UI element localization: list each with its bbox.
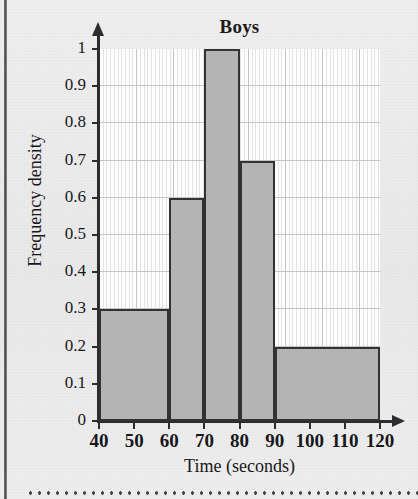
x-tick-mark	[168, 421, 170, 429]
y-tick-mark	[92, 271, 99, 273]
y-tick-mark	[92, 48, 99, 50]
x-tick-mark	[274, 421, 276, 429]
y-tick-mark	[92, 122, 99, 124]
y-tick-mark	[92, 346, 99, 348]
x-tick-mark	[344, 421, 346, 429]
y-tick-label: 0.2	[34, 336, 86, 356]
page-canvas: Boys 00.10.20.30.40.50.60.70.80.91 40506…	[0, 0, 418, 499]
histogram-bar	[204, 49, 239, 421]
x-tick-mark	[379, 421, 381, 429]
y-tick-mark	[92, 234, 99, 236]
y-tick-mark	[92, 160, 99, 162]
y-axis-arrow-icon	[92, 22, 104, 36]
x-tick-mark	[203, 421, 205, 429]
y-tick-label: 0.9	[34, 75, 86, 95]
y-tick-mark	[92, 383, 99, 385]
x-axis-arrow-icon	[392, 415, 405, 427]
histogram-bar	[275, 347, 380, 421]
histogram-chart: Boys 00.10.20.30.40.50.60.70.80.91 40506…	[0, 0, 418, 499]
x-tick-mark	[98, 421, 100, 429]
y-tick-label: 0	[34, 410, 86, 430]
y-tick-label: 1	[34, 38, 86, 58]
x-tick-mark	[133, 421, 135, 429]
y-tick-mark	[92, 85, 99, 87]
x-axis-title: Time (seconds)	[99, 456, 380, 477]
x-tick-mark	[239, 421, 241, 429]
x-tick-label: 120	[358, 430, 402, 452]
plot-area	[99, 49, 380, 421]
histogram-bar	[240, 161, 275, 421]
y-axis-title: Frequency density	[25, 96, 46, 306]
histogram-bar	[99, 309, 169, 421]
y-tick-label: 0.1	[34, 373, 86, 393]
histogram-bar	[169, 198, 204, 421]
y-tick-mark	[92, 197, 99, 199]
chart-title: Boys	[99, 16, 380, 38]
y-tick-mark	[92, 308, 99, 310]
x-tick-mark	[309, 421, 311, 429]
